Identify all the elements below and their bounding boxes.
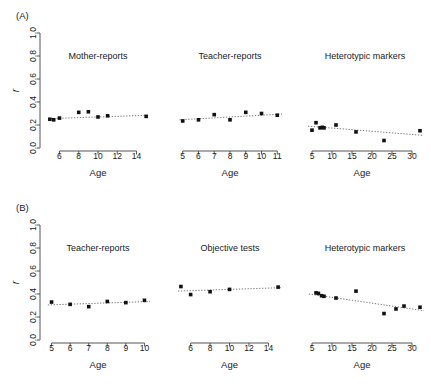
x-tick-label-2: 15 [347,343,357,353]
x-tick-label-4: 14 [264,343,274,353]
x-tick-label-3: 12 [244,343,254,353]
x-tick-label-5: 30 [407,151,417,161]
x-tick-label-2: 7 [212,151,217,161]
y-tick-label-row0-2: 0.4 [28,96,38,108]
x-tick-label-3: 20 [367,151,377,161]
y-tick-label-row1-5: 1.0 [28,219,38,231]
x-tick-label-0: 6 [57,151,62,161]
x-tick-label-5: 30 [407,343,417,353]
panel-title-b-3: Heterotypic markers [325,243,406,253]
x-tick-label-2: 15 [347,151,357,161]
data-point-5 [143,299,147,303]
panel-b-2: Objective tests68101214Age [178,243,281,370]
x-axis-title: Age [354,359,371,370]
x-tick-label-4: 14 [132,151,142,161]
x-tick-label-3: 8 [228,151,233,161]
data-point-3 [228,288,232,292]
x-axis-title: Age [221,359,238,370]
y-tick-label-row0-4: 0.8 [28,50,38,62]
data-point-6 [354,130,358,134]
panel-a-1: Mother-reports68101214Age [48,51,149,178]
data-point-2 [212,113,216,117]
data-point-5 [354,289,358,293]
data-point-3 [228,118,232,122]
x-tick-label-1: 8 [208,343,213,353]
data-point-1 [197,118,201,122]
x-tick-label-4: 9 [243,151,248,161]
data-point-4 [124,301,128,305]
y-tick-label-row0-3: 0.6 [28,73,38,85]
panel-b-3: Heterotypic markers51015202530Age [309,243,424,370]
data-point-1 [189,293,193,297]
x-tick-label-0: 5 [310,151,315,161]
data-point-7 [394,307,398,311]
panel-a-2: Teacher-reports567891011Age [180,51,282,178]
data-point-4 [276,285,280,289]
panel-a-3: Heterotypic markers51015202530Age [308,51,423,178]
x-tick-label-0: 5 [49,343,54,353]
x-tick-label-4: 25 [387,343,397,353]
x-axis-title: Age [354,167,371,178]
data-point-7 [144,115,148,119]
data-point-1 [317,292,321,296]
data-point-4 [334,296,338,300]
data-point-2 [208,290,212,294]
data-point-6 [106,114,110,118]
data-point-8 [418,129,422,133]
data-point-6 [382,312,386,316]
x-tick-label-1: 6 [196,151,201,161]
data-point-7 [382,139,386,143]
y-tick-label-row0-1: 0.2 [28,119,38,131]
x-tick-label-1: 10 [327,151,337,161]
x-tick-label-2: 10 [225,343,235,353]
panel-letter-a: (A) [16,10,29,21]
y-tick-label-row1-2: 0.4 [28,288,38,300]
panel-title-a-3: Heterotypic markers [325,51,406,61]
y-tick-label-row0-0: 0.0 [28,142,38,154]
data-point-6 [275,113,279,117]
x-tick-label-1: 10 [327,343,337,353]
y-tick-label-row0-5: 1.0 [28,27,38,39]
x-tick-label-4: 25 [387,151,397,161]
x-tick-label-3: 12 [113,151,123,161]
y-tick-label-row1-4: 0.8 [28,242,38,254]
data-point-4 [244,111,248,115]
panel-title-a-2: Teacher-reports [198,51,262,61]
x-tick-label-3: 8 [105,343,110,353]
x-tick-label-0: 5 [180,151,185,161]
x-tick-label-1: 8 [76,151,81,161]
x-tick-label-0: 5 [310,343,315,353]
data-point-0 [181,119,185,123]
data-point-9 [418,305,422,309]
data-point-5 [96,115,100,119]
panel-letter-b: (B) [16,202,29,213]
data-point-8 [402,304,406,308]
data-point-5 [260,112,264,116]
x-tick-label-4: 9 [123,343,128,353]
panel-b-1: Teacher-reports5678910Age [48,243,150,370]
data-point-0 [310,128,314,132]
x-axis-title: Age [222,167,239,178]
data-point-3 [322,295,326,299]
trend-line [309,294,424,311]
panel-title-b-1: Teacher-reports [66,243,130,253]
data-point-0 [48,117,52,121]
data-point-1 [52,118,56,122]
x-tick-label-5: 10 [140,343,150,353]
data-point-2 [87,305,91,309]
figure-container: (A)(B)0.00.20.40.60.81.0r0.00.20.40.60.8… [0,0,431,384]
trend-line [48,301,150,304]
x-axis-title: Age [90,167,107,178]
data-point-3 [77,111,81,115]
y-axis-title-row0: r [10,88,21,92]
data-point-1 [68,303,72,307]
x-tick-label-1: 6 [68,343,73,353]
data-point-5 [334,123,338,127]
panel-title-a-1: Mother-reports [68,51,128,61]
x-tick-label-3: 20 [367,343,377,353]
data-point-1 [314,121,318,125]
x-tick-label-6: 11 [273,151,282,161]
data-point-4 [87,110,91,114]
x-tick-label-0: 6 [188,343,193,353]
y-tick-label-row1-1: 0.2 [28,311,38,323]
